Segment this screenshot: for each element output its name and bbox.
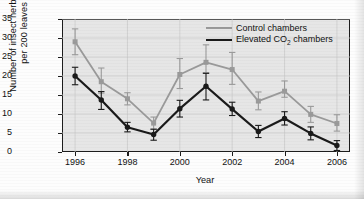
y-tick-mark (58, 19, 62, 20)
y-tick-label: 5 (0, 127, 12, 137)
x-tick-label: 1996 (55, 157, 95, 167)
data-point-marker (282, 116, 287, 121)
data-point-marker (308, 131, 313, 136)
data-point-marker (177, 106, 182, 111)
data-point-marker (177, 72, 182, 77)
x-tick-mark (180, 152, 181, 156)
legend-label-elevated: Elevated CO2 chambers (236, 34, 333, 46)
data-point-marker (203, 84, 208, 89)
x-tick-label: 1998 (107, 157, 147, 167)
x-tick-mark (75, 152, 76, 156)
data-point-marker (99, 97, 104, 102)
y-tick-mark (58, 76, 62, 77)
y-tick-mark (58, 133, 62, 134)
data-point-marker (151, 132, 156, 137)
x-tick-mark (127, 152, 128, 156)
y-tick-mark (58, 152, 62, 153)
y-tick-label: 25 (0, 51, 12, 61)
y-tick-mark (58, 114, 62, 115)
legend-label-elevated-prefix: Elevated CO (236, 34, 287, 44)
legend-label-elevated-suffix: chambers (291, 34, 333, 44)
legend-swatch-elevated-icon (206, 39, 232, 41)
legend-swatch-control-icon (206, 27, 232, 29)
data-point-marker (334, 121, 339, 126)
y-tick-label: 15 (0, 89, 12, 99)
page-shadow-bottom (0, 190, 364, 199)
data-point-marker (334, 143, 339, 148)
x-tick-mark (232, 152, 233, 156)
y-tick-label: 10 (0, 108, 12, 118)
legend-item-control: Control chambers (206, 22, 333, 34)
y-tick-label: 20 (0, 70, 12, 80)
series-elevated (72, 67, 340, 150)
y-tick-label: 0 (0, 146, 12, 156)
data-point-marker (256, 99, 261, 104)
data-point-marker (125, 125, 130, 130)
y-tick-mark (58, 57, 62, 58)
y-tick-label: 30 (0, 32, 12, 42)
data-point-marker (282, 89, 287, 94)
y-tick-label: 35 (0, 13, 12, 23)
x-tick-mark (285, 152, 286, 156)
y-tick-mark (58, 38, 62, 39)
data-point-marker (125, 96, 130, 101)
data-point-marker (73, 39, 78, 44)
x-tick-label: 2000 (160, 157, 200, 167)
data-point-marker (308, 112, 313, 117)
page-shadow-right (354, 0, 364, 199)
x-axis-title: Year (60, 175, 350, 185)
data-point-marker (256, 129, 261, 134)
data-point-marker (230, 67, 235, 72)
data-point-marker (151, 121, 156, 126)
y-tick-mark (58, 95, 62, 96)
x-tick-mark (337, 152, 338, 156)
data-point-marker (72, 73, 77, 78)
x-tick-label: 2004 (265, 157, 305, 167)
legend-item-elevated: Elevated CO2 chambers (206, 34, 333, 46)
y-axis-title-line2: per 200 leaves (19, 2, 29, 64)
legend-label-control: Control chambers (236, 23, 307, 33)
data-point-marker (229, 106, 234, 111)
x-tick-label: 2002 (212, 157, 252, 167)
data-point-marker (204, 60, 209, 65)
x-tick-label: 2006 (317, 157, 357, 167)
chart-legend: Control chambers Elevated CO2 chambers (206, 22, 333, 46)
figure-page: Number of insect herbivores per 200 leav… (0, 0, 364, 199)
data-point-marker (99, 79, 104, 84)
